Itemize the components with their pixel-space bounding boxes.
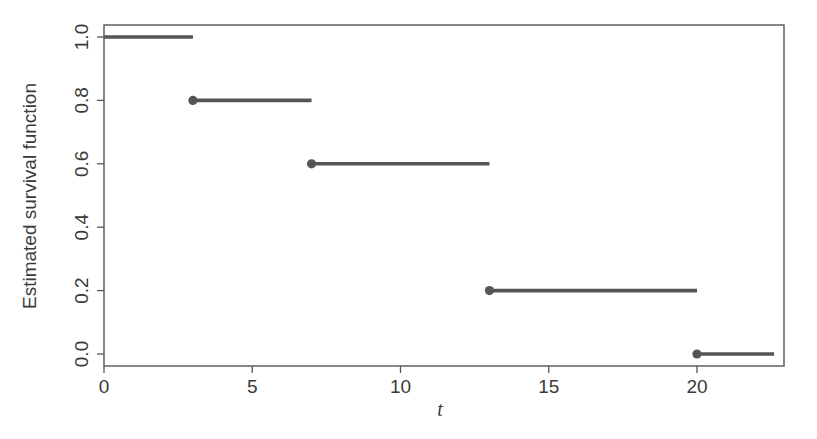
y-tick-label: 0.6 xyxy=(71,151,92,177)
y-tick-label: 0.4 xyxy=(71,214,92,241)
step-point xyxy=(485,286,494,295)
step-point xyxy=(188,96,197,105)
y-axis-title: Estimated survival function xyxy=(19,83,40,309)
step-point xyxy=(307,159,316,168)
x-tick-label: 5 xyxy=(247,376,258,397)
plot-frame xyxy=(104,25,784,366)
survival-chart: 05101520 0.00.20.40.60.81.0 t Estimated … xyxy=(0,0,817,439)
x-tick-label: 0 xyxy=(99,376,110,397)
y-tick-label: 0.8 xyxy=(71,87,92,113)
y-tick-label: 0.2 xyxy=(71,277,92,303)
step-series xyxy=(104,37,774,359)
x-axis-title: t xyxy=(437,398,443,420)
step-point xyxy=(692,349,701,358)
y-tick-label: 1.0 xyxy=(71,24,92,50)
y-tick-label: 0.0 xyxy=(71,341,92,367)
x-tick-label: 20 xyxy=(686,376,707,397)
y-axis: 0.00.20.40.60.81.0 xyxy=(71,24,104,367)
x-tick-label: 15 xyxy=(538,376,559,397)
x-axis: 05101520 xyxy=(99,366,708,397)
x-tick-label: 10 xyxy=(390,376,411,397)
